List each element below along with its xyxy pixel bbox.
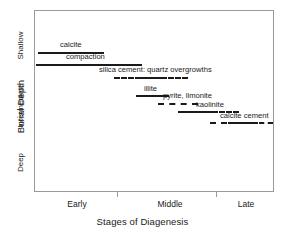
event-label-pyrite-limonite: pyrite, limonite xyxy=(163,91,212,100)
event-bar-silica-cement-trail xyxy=(168,77,188,79)
y-tick-label-intermediate: Intermediate xyxy=(16,76,25,136)
event-label-calcite: calcite xyxy=(60,40,82,49)
x-tick-label-late: Late xyxy=(238,199,255,209)
event-bar-kaolinite-main xyxy=(178,111,218,113)
x-tick-label-middle: Middle xyxy=(157,199,182,209)
event-bar-pyrite-limonite xyxy=(158,103,198,105)
y-tick-label-shallow: Shallow xyxy=(16,22,25,70)
event-label-silica-cement: silica cement: quartz overgrowths xyxy=(99,65,212,74)
event-label-kaolinite: kaolinite xyxy=(196,100,224,109)
x-axis-title: Stages of Diagenesis xyxy=(0,216,285,227)
diagenesis-chart: Burial Depth Shallow Intermediate Deep E… xyxy=(0,0,285,236)
x-tick-mark-2 xyxy=(216,192,217,197)
event-bar-silica-cement-main xyxy=(135,77,167,79)
event-label-calcite-cement: calcite cement xyxy=(220,111,269,120)
event-bar-calcite-cement-trail xyxy=(259,122,273,124)
x-tick-mark-1 xyxy=(117,192,118,197)
event-label-illite: illite xyxy=(144,84,157,93)
event-bar-calcite-cement-lead xyxy=(210,122,227,124)
event-bar-calcite-cement-main xyxy=(228,122,258,124)
y-tick-label-deep: Deep xyxy=(16,141,25,185)
x-tick-label-early: Early xyxy=(67,199,86,209)
event-bar-silica-cement-lead xyxy=(114,77,134,79)
event-label-compaction: compaction xyxy=(66,52,105,61)
plot-area xyxy=(34,10,274,192)
